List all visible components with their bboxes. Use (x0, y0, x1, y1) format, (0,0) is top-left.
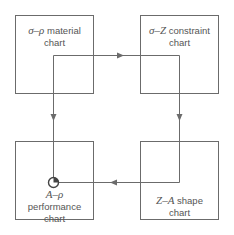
constraint-subtitle: chart (169, 37, 190, 48)
shape-title: shape (177, 195, 203, 206)
performance-chart-label: A–ρ performance chart (15, 188, 94, 225)
arrow-down-icon (177, 114, 183, 121)
performance-title: performance (28, 201, 81, 212)
performance-subtitle: chart (44, 213, 65, 224)
constraint-symbol: σ–Z (149, 24, 166, 36)
shape-symbol: Z–A (156, 194, 174, 206)
constraint-title: constraint (169, 25, 210, 36)
shape-chart-label: Z–A shape chart (140, 194, 219, 219)
arrow-left-icon (110, 180, 117, 186)
arrow-right-icon (117, 53, 124, 59)
constraint-chart-label: σ–Z constraint chart (140, 24, 219, 49)
material-chart-label: σ–ρ material chart (15, 24, 94, 49)
material-subtitle: chart (44, 37, 65, 48)
target-marker-icon (49, 178, 59, 188)
arrow-down-icon (51, 114, 57, 121)
material-symbol: σ–ρ (28, 24, 44, 36)
performance-symbol: A–ρ (46, 188, 64, 200)
shape-subtitle: chart (169, 207, 190, 218)
flow-loop-line (54, 56, 180, 183)
material-title: material (47, 25, 81, 36)
